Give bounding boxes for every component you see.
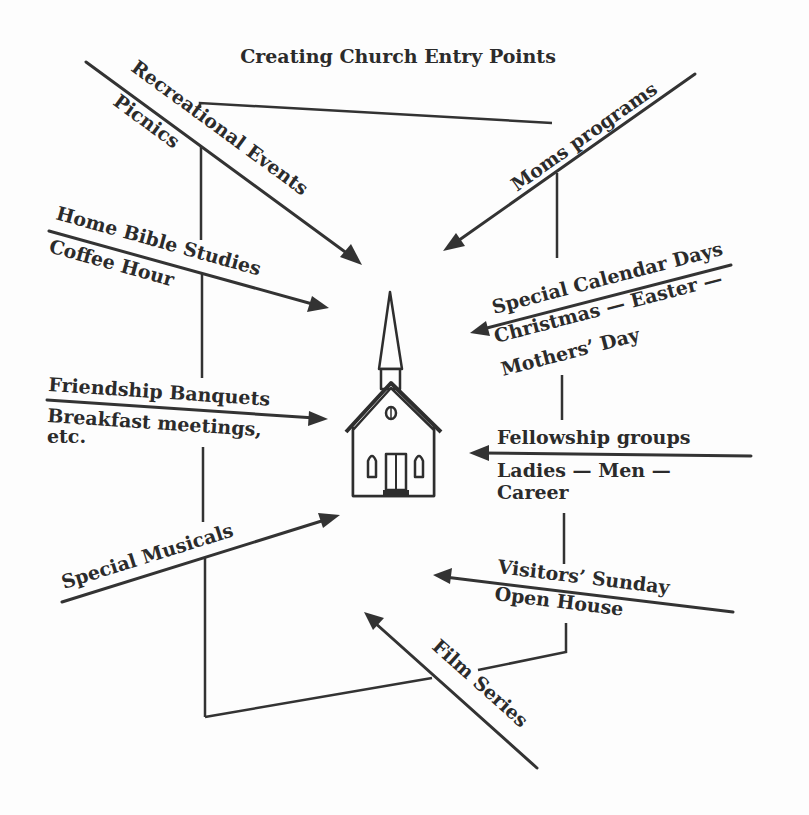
sublabel-ladies-men: Ladies — Men — [497, 459, 671, 481]
bottom-link-left [205, 678, 432, 717]
label-friendship-banquets: Friendship Banquets [48, 373, 271, 410]
bottom-link-right [478, 623, 566, 670]
entry-points-diagram: Creating Church Entry Points [0, 0, 809, 815]
arrowhead-icon [307, 296, 329, 312]
arrowhead-icon [433, 568, 452, 584]
arrowhead-icon [443, 233, 465, 251]
arrowhead-icon [469, 445, 489, 461]
arrow-film-series [374, 622, 537, 768]
sublabel-career: Career [497, 481, 570, 503]
church-icon [346, 292, 441, 496]
arrow-moms-programs [455, 74, 695, 243]
label-moms-programs: Moms programs [507, 77, 661, 195]
arrowhead-icon [340, 244, 362, 265]
label-fellowship-groups: Fellowship groups [497, 426, 690, 448]
top-link [200, 103, 552, 123]
arrow-fellowship-groups [482, 453, 751, 456]
diagram-canvas: Creating Church Entry Points [0, 0, 809, 815]
arrowhead-icon [470, 321, 490, 336]
diagram-title: Creating Church Entry Points [240, 45, 556, 67]
arrowhead-icon [308, 411, 328, 426]
sublabel-etc: etc. [47, 425, 86, 447]
arrowhead-icon [318, 513, 340, 528]
